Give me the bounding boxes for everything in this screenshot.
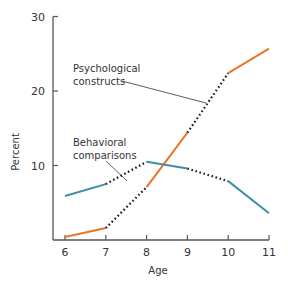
chart: 10203067891011 PsychologicalconstructsBe… xyxy=(0,0,288,289)
x-tick-label: 10 xyxy=(221,246,235,259)
dotted-segment xyxy=(106,187,147,228)
y-axis-title: Percent xyxy=(10,133,21,171)
dotted-segment xyxy=(187,168,228,181)
dotted-segment xyxy=(187,73,228,133)
x-tick-label: 11 xyxy=(262,246,276,259)
leader-line xyxy=(122,81,206,103)
line-segment xyxy=(228,49,269,74)
x-tick-label: 7 xyxy=(102,246,109,259)
leader-line xyxy=(106,161,127,181)
line-segment xyxy=(65,228,106,237)
line-segment xyxy=(65,184,106,196)
x-tick-label: 8 xyxy=(143,246,150,259)
line-chart: 10203067891011 PsychologicalconstructsBe… xyxy=(0,0,288,289)
x-axis-title: Age xyxy=(148,265,167,276)
y-tick-label: 20 xyxy=(31,85,45,98)
line-segment xyxy=(228,181,269,213)
x-tick-label: 6 xyxy=(62,246,69,259)
annotation-behavioral-comparisons: Behavioralcomparisons xyxy=(73,137,137,161)
y-tick-label: 10 xyxy=(31,160,45,173)
x-tick-label: 9 xyxy=(184,246,191,259)
series-behavioral-comparisons xyxy=(65,162,269,213)
annotations: PsychologicalconstructsBehavioralcompari… xyxy=(73,63,206,181)
line-segment xyxy=(147,162,188,169)
axes: 10203067891011 xyxy=(31,11,276,260)
line-segment xyxy=(147,133,188,187)
y-tick-label: 30 xyxy=(31,11,45,24)
